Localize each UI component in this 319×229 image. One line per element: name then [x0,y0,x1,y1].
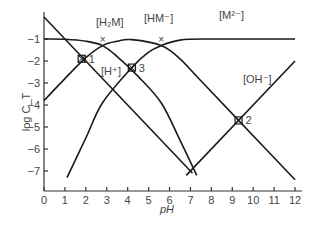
curves [44,17,295,180]
y-tick-label: −2 [27,55,40,67]
x-axis-label: pH [159,203,174,215]
series-h2m [44,39,197,175]
x-tick-label: 0 [41,194,47,206]
y-axis-label: log C_T [20,92,32,131]
x-tick-label: 11 [268,194,279,206]
x-tick-label: 7 [187,194,193,206]
x-tick-label: 9 [229,194,235,206]
label-h2m: [H₂M] [96,16,124,28]
series-hm [44,39,295,179]
x-tick-label: 5 [146,194,152,206]
label-h: [H⁺] [101,65,121,77]
label-m2: [M²⁻] [219,9,244,21]
x-tick-label: 10 [247,194,259,206]
x-tick-label: 2 [83,194,89,206]
x-tick-label: 8 [208,194,214,206]
y-tick-label: −1 [27,33,40,45]
label-oh: [OH⁻] [243,73,272,85]
y-tick-label: −3 [27,77,40,89]
x-tick-label: 12 [289,194,301,206]
y-tick-label: −7 [27,165,40,177]
y-tick-label: −6 [27,143,40,155]
label-hm: [HM⁻] [144,12,173,24]
x-tick-label: 3 [104,194,110,206]
pka-marker: × [100,34,106,45]
pka-marker: × [158,34,164,45]
plot-area: 0123456789101112−1−2−3−4−5−6−7 123×× [H₂… [0,0,319,229]
x-tick-label: 1 [62,194,68,206]
point-label: 2 [246,114,252,126]
point-label: 1 [89,53,95,65]
point-label: 3 [139,62,145,74]
chart: 0123456789101112−1−2−3−4−5−6−7 123×× [H₂… [0,0,319,229]
x-tick-label: 4 [125,194,131,206]
